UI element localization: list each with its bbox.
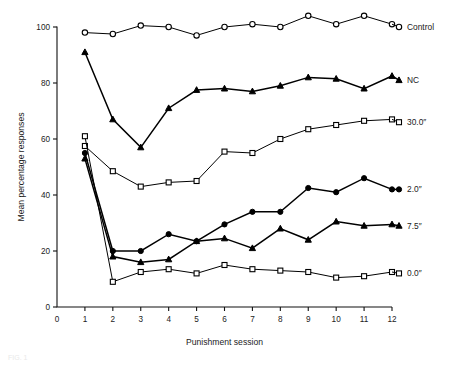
series-2.0 <box>82 150 394 253</box>
marker-open-square <box>250 267 255 272</box>
marker-open-square <box>250 151 255 156</box>
x-tick-label: 7 <box>250 315 255 324</box>
caption-text: FIG. 1 <box>8 354 27 361</box>
marker-filled-triangle <box>82 49 88 55</box>
series-label-5: 0.0″ <box>407 268 422 278</box>
marker-filled-triangle <box>110 116 116 122</box>
x-tick-label: 6 <box>222 315 227 324</box>
marker-open-square <box>194 271 199 276</box>
x-axis-title: Punishment session <box>186 337 263 347</box>
marker-open-square <box>138 184 143 189</box>
marker-open-square <box>397 120 402 125</box>
series-0.0 <box>82 134 394 285</box>
marker-filled-circle <box>396 187 401 192</box>
series-line <box>85 159 392 263</box>
marker-filled-triangle <box>166 105 172 111</box>
marker-open-square <box>194 179 199 184</box>
series-line <box>85 52 392 147</box>
figure-panel: 0204060801000123456789101112Punishment s… <box>0 0 453 366</box>
marker-open-circle <box>138 23 143 28</box>
series-label-1: NC <box>407 75 419 85</box>
y-tick-label: 20 <box>41 247 51 256</box>
marker-filled-circle <box>138 248 143 253</box>
marker-open-square <box>166 267 171 272</box>
caption-strip: FIG. 1 <box>0 352 453 366</box>
marker-open-circle <box>278 24 283 29</box>
series-control <box>82 13 394 38</box>
marker-open-square <box>362 274 367 279</box>
x-tick-label: 8 <box>278 315 283 324</box>
data-series-group <box>82 13 395 284</box>
marker-open-circle <box>333 22 338 27</box>
marker-filled-triangle <box>333 218 339 224</box>
marker-open-circle <box>396 24 401 29</box>
series-label-4: 7.5″ <box>407 221 422 231</box>
marker-open-square <box>334 275 339 280</box>
marker-open-circle <box>82 30 87 35</box>
series-labels: ControlNC30.0″2.0″7.5″0.0″ <box>392 22 434 278</box>
marker-open-square <box>306 127 311 132</box>
marker-open-square <box>397 271 402 276</box>
y-tick-label: 80 <box>41 79 51 88</box>
marker-open-circle <box>361 13 366 18</box>
x-tick-label: 4 <box>166 315 171 324</box>
marker-open-circle <box>222 24 227 29</box>
y-tick-label: 60 <box>41 135 51 144</box>
y-axis-title: Mean percentage responses <box>16 113 26 222</box>
marker-open-circle <box>306 13 311 18</box>
marker-filled-triangle <box>277 225 283 231</box>
x-tick-label: 1 <box>83 315 88 324</box>
x-tick-label: 11 <box>360 315 369 324</box>
series-nc <box>82 49 395 150</box>
axes: 0204060801000123456789101112Punishment s… <box>16 23 397 347</box>
y-tick-label: 40 <box>41 191 51 200</box>
marker-open-circle <box>194 33 199 38</box>
marker-open-square <box>110 169 115 174</box>
marker-open-square <box>222 263 227 268</box>
series-label-3: 2.0″ <box>407 184 422 194</box>
marker-filled-triangle <box>110 253 116 259</box>
marker-filled-circle <box>222 222 227 227</box>
x-tick-label: 9 <box>306 315 311 324</box>
marker-open-circle <box>250 22 255 27</box>
marker-filled-circle <box>278 209 283 214</box>
marker-open-square <box>222 149 227 154</box>
marker-open-square <box>362 118 367 123</box>
marker-open-square <box>278 137 283 142</box>
y-tick-label: 0 <box>45 303 50 312</box>
series-line <box>85 16 392 36</box>
x-tick-label: 12 <box>387 315 397 324</box>
marker-open-circle <box>110 31 115 36</box>
series-label-0: Control <box>407 22 434 32</box>
marker-filled-circle <box>250 209 255 214</box>
x-tick-label: 2 <box>111 315 116 324</box>
marker-filled-circle <box>306 185 311 190</box>
series-line <box>85 119 392 186</box>
marker-open-square <box>166 180 171 185</box>
y-tick-label: 100 <box>36 23 50 32</box>
marker-open-square <box>306 270 311 275</box>
line-chart: 0204060801000123456789101112Punishment s… <box>0 0 453 366</box>
marker-filled-circle <box>166 232 171 237</box>
x-tick-label: 5 <box>194 315 199 324</box>
series-7.5 <box>82 155 395 264</box>
marker-open-square <box>138 270 143 275</box>
series-30.0 <box>82 117 394 189</box>
marker-open-circle <box>166 24 171 29</box>
x-tick-label: 0 <box>55 315 60 324</box>
series-line <box>85 153 392 251</box>
series-label-2: 30.0″ <box>407 117 426 127</box>
marker-filled-circle <box>334 190 339 195</box>
marker-open-square <box>110 279 115 284</box>
marker-filled-circle <box>361 176 366 181</box>
marker-open-square <box>82 134 87 139</box>
x-tick-label: 3 <box>138 315 143 324</box>
x-tick-label: 10 <box>332 315 342 324</box>
marker-open-square <box>334 123 339 128</box>
marker-open-square <box>278 268 283 273</box>
